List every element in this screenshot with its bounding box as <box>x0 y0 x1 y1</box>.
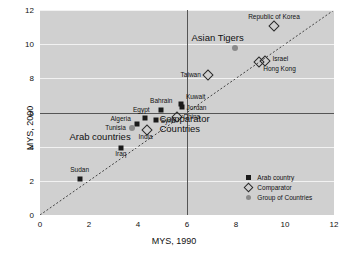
legend-label: Comparator <box>257 184 291 191</box>
legend-label: Group of Countries <box>257 194 312 201</box>
y-axis-label: MYS, 2000 <box>25 106 35 151</box>
data-point <box>179 105 184 110</box>
data-point-label: Republic of Korea <box>248 14 300 21</box>
chart-annotation: Arab countries <box>69 132 130 142</box>
data-point <box>232 45 238 51</box>
data-point <box>77 177 82 182</box>
x-axis-tick-label: 4 <box>136 220 140 229</box>
data-point <box>143 115 148 120</box>
data-point-label: Sudan <box>70 167 89 174</box>
chart-annotation: Asian Tigers <box>191 33 243 43</box>
chart-annotation: Comparator Countries <box>159 114 209 134</box>
x-axis-tick-label: 12 <box>330 220 339 229</box>
data-point-label: Algeria <box>111 116 131 123</box>
data-point <box>129 125 135 131</box>
legend-marker-icon <box>243 175 253 180</box>
y-axis-tick-label: 10 <box>10 40 34 49</box>
chart-legend: Arab countryComparatorGroup of Countries <box>243 173 312 203</box>
data-point-label: Kuwait <box>186 94 206 101</box>
legend-marker-icon <box>243 184 253 191</box>
legend-item: Comparator <box>243 183 312 192</box>
data-point-label: India <box>139 134 153 141</box>
x-axis-tick-label: 10 <box>281 220 290 229</box>
legend-item: Arab country <box>243 173 312 182</box>
x-axis-tick-label: 2 <box>87 220 91 229</box>
scatter-chart: Republic of KoreaIsraelHong KongTaiwanKu… <box>0 0 348 256</box>
data-point <box>268 21 279 32</box>
x-axis-tick-label: 8 <box>234 220 238 229</box>
legend-item: Group of Countries <box>243 193 312 202</box>
data-point-label: Taiwan <box>181 72 201 79</box>
legend-marker-icon <box>243 195 253 200</box>
y-axis-tick-label: 12 <box>10 6 34 15</box>
x-axis-tick-label: 6 <box>185 220 189 229</box>
data-point-label: Bahrain <box>150 98 172 105</box>
data-point-label: Jordan <box>187 105 207 112</box>
legend-label: Arab country <box>257 174 294 181</box>
y-axis-tick-label: 0 <box>10 211 34 220</box>
y-axis-tick-label: 8 <box>10 74 34 83</box>
x-axis-label: MYS, 1990 <box>0 236 348 246</box>
y-axis-tick-label: 2 <box>10 176 34 185</box>
data-point <box>153 118 158 123</box>
x-axis-tick-label: 0 <box>38 220 42 229</box>
data-point-label: Hong Kong <box>263 66 296 73</box>
data-point-label: Iraq <box>115 151 126 158</box>
data-point-label: Israel <box>272 56 288 63</box>
data-point-label: Egypt <box>133 107 150 114</box>
data-point <box>134 122 139 127</box>
